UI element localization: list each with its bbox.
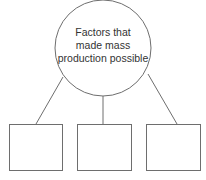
answer-box-right[interactable] — [147, 125, 201, 171]
answer-box-left[interactable] — [10, 125, 63, 171]
answer-box-middle[interactable] — [78, 125, 132, 171]
central-node-label: Factors that made mass production possib… — [56, 26, 150, 65]
connector-left — [36, 77, 63, 124]
connector-right — [148, 74, 177, 124]
central-label-line-1: Factors that — [56, 26, 150, 39]
central-label-line-3: production possible — [56, 52, 150, 65]
central-label-line-2: made mass — [56, 39, 150, 52]
